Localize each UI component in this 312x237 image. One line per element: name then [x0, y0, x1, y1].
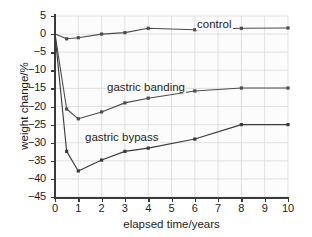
x-axis-tick-mark	[78, 198, 79, 202]
data-point-marker	[77, 169, 80, 172]
x-axis-tick-mark	[241, 198, 242, 202]
data-point-marker	[65, 107, 68, 110]
x-axis-tick-label: 0	[43, 203, 67, 214]
data-point-marker	[123, 101, 126, 104]
x-axis-tick-label: 9	[253, 203, 277, 214]
x-axis-tick-mark	[172, 198, 173, 202]
data-point-marker	[65, 37, 68, 40]
data-point-marker	[147, 97, 150, 100]
chart-figure: 50−5−10−15−20−25−30−35−40−45 01234567891…	[0, 0, 312, 237]
series-label-gastric-bypass: gastric bypass	[84, 131, 160, 143]
data-point-marker	[240, 27, 243, 30]
x-axis-tick-mark	[102, 198, 103, 202]
x-axis-tick-label: 1	[66, 203, 90, 214]
x-axis-tick-label: 3	[113, 203, 137, 214]
y-axis-line	[54, 14, 56, 199]
data-point-marker	[193, 89, 196, 92]
data-point-marker	[147, 27, 150, 30]
data-point-marker	[147, 147, 150, 150]
data-point-marker	[240, 123, 243, 126]
data-point-marker	[123, 150, 126, 153]
x-axis-tick-mark	[195, 198, 196, 202]
data-point-marker	[286, 86, 289, 89]
data-point-marker	[193, 137, 196, 140]
series-gastric-banding	[55, 34, 290, 120]
data-point-marker	[77, 117, 80, 120]
x-axis-tick-label: 8	[229, 203, 253, 214]
x-axis-tick-label: 4	[136, 203, 160, 214]
y-axis-tick-label: 5	[0, 10, 52, 21]
x-axis-tick-label: 10	[276, 203, 300, 214]
data-point-marker	[123, 31, 126, 34]
x-axis-tick-label: 5	[160, 203, 184, 214]
x-axis-tick-mark	[218, 198, 219, 202]
series-label-control: control	[196, 18, 233, 30]
data-point-marker	[100, 158, 103, 161]
x-axis-line	[54, 197, 289, 199]
x-axis-tick-mark	[265, 198, 266, 202]
x-axis-tick-mark	[288, 198, 289, 202]
x-axis-tick-label: 6	[183, 203, 207, 214]
series-label-gastric-banding: gastric banding	[106, 81, 186, 93]
data-point-marker	[65, 150, 68, 153]
x-axis-tick-label: 2	[90, 203, 114, 214]
data-point-marker	[240, 86, 243, 89]
y-axis-title: weight change/%	[18, 31, 30, 181]
data-point-marker	[286, 123, 289, 126]
data-series-group	[55, 16, 288, 197]
data-point-marker	[100, 33, 103, 36]
series-line	[55, 34, 288, 119]
series-gastric-bypass	[55, 34, 290, 172]
series-line	[55, 34, 288, 171]
x-axis-title: elapsed time/years	[55, 218, 288, 230]
data-point-marker	[100, 110, 103, 113]
plot-area	[55, 16, 288, 197]
data-point-marker	[286, 26, 289, 29]
x-axis-tick-mark	[148, 198, 149, 202]
series-line	[55, 28, 288, 39]
data-point-marker	[77, 36, 80, 39]
y-axis-tick-label: −45	[0, 191, 52, 202]
series-control	[55, 26, 290, 40]
x-axis-tick-label: 7	[206, 203, 230, 214]
x-axis-tick-mark	[125, 198, 126, 202]
